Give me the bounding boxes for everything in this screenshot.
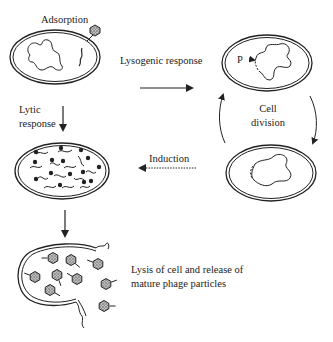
released-phage-particles xyxy=(24,253,117,312)
phage-tail xyxy=(24,273,30,275)
phage-tail xyxy=(111,280,117,282)
phage-capsid xyxy=(101,279,111,290)
label-lytic-response: response xyxy=(19,117,56,130)
ruptured-wall-bottom xyxy=(76,300,86,328)
phage-particle xyxy=(42,253,58,264)
phage-particle xyxy=(99,301,115,312)
phage-capsid xyxy=(99,301,109,312)
label-adsorption: Adsorption xyxy=(41,13,88,26)
phage-capsid xyxy=(52,270,62,281)
dividing-lysogen-cell xyxy=(226,145,316,201)
injected-phage-dna xyxy=(79,48,82,66)
ruptured-wall-top xyxy=(96,243,109,249)
phage-particle xyxy=(52,270,62,286)
phage-tail xyxy=(87,260,93,262)
phage-capsid xyxy=(66,255,76,266)
adsorption-cell xyxy=(10,30,100,84)
label-lysogenic-response: Lysogenic response xyxy=(120,54,203,67)
phage-tail xyxy=(67,273,72,276)
arrow-cell-division-up xyxy=(219,95,225,143)
label-prophage: P xyxy=(237,53,243,66)
phage-particle xyxy=(87,259,103,270)
label-lytic: Lytic xyxy=(19,103,41,116)
phage-particle xyxy=(67,273,82,284)
chromosome-with-prophage xyxy=(256,44,291,80)
phage-capsid xyxy=(30,272,40,283)
phage-capsid xyxy=(45,285,55,296)
attached-phage xyxy=(87,25,100,41)
label-induction: Induction xyxy=(149,152,189,165)
phage-capsid xyxy=(72,274,82,285)
label-lysis-line2: mature phage particles xyxy=(131,277,226,290)
label-division: division xyxy=(243,116,293,129)
phage-capsid xyxy=(93,259,103,270)
label-lysis-line1: Lysis of cell and release of xyxy=(131,263,243,276)
phage-tail xyxy=(55,293,60,296)
lysogen-chromosome xyxy=(252,154,291,185)
lysed-cell xyxy=(18,243,109,328)
phage-particle xyxy=(66,255,80,268)
phage-tail xyxy=(59,280,61,286)
lysogen-cell xyxy=(222,35,312,91)
prophage-segment xyxy=(255,58,260,72)
phage-life-cycle-diagram xyxy=(0,0,333,342)
label-cell: Cell xyxy=(243,102,293,115)
phage-particle xyxy=(45,285,60,296)
lytic-cell xyxy=(15,143,109,199)
phage-capsid xyxy=(48,253,58,264)
phage-particle xyxy=(101,279,117,290)
arrow-cell-division-down xyxy=(310,96,316,143)
phage-tail xyxy=(75,264,80,268)
phage-particle xyxy=(24,272,40,283)
bacterial-chromosome xyxy=(28,40,63,70)
